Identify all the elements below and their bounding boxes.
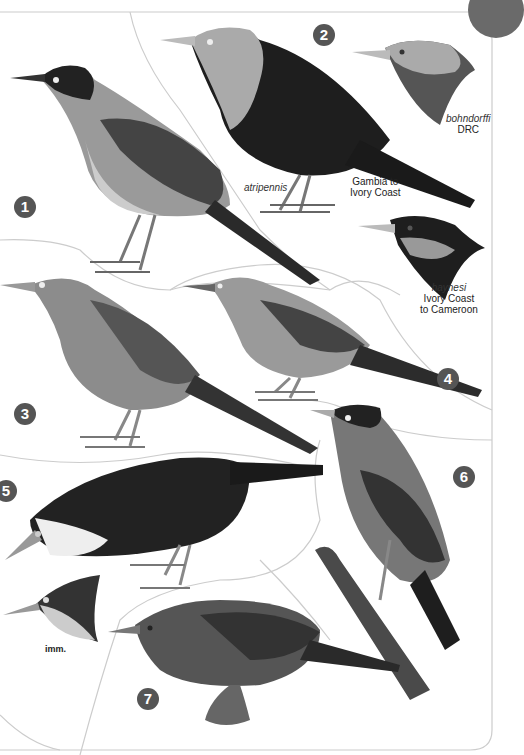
label-immature: imm. [45,644,66,655]
label-bohndorffi: bohndorffiDRC [446,113,490,135]
species-number-badge-6: 6 [453,466,475,488]
species-number-badge-3: 3 [14,403,36,425]
species-number-badge-2: 2 [313,24,335,46]
label-gambia-range: Gambia toIvory Coast [350,176,401,198]
label-atripennis: atripennis [244,182,287,193]
species-number-badge-4: 4 [437,368,459,390]
bird-5-immature-head-illustration [3,575,100,642]
species-number-badge-1: 1 [14,196,36,218]
species-number-badge-7: 7 [137,688,159,710]
bird-5-illustration [5,458,323,589]
label-haynesi: haynesiIvory Coastto Cameroon [420,282,478,315]
